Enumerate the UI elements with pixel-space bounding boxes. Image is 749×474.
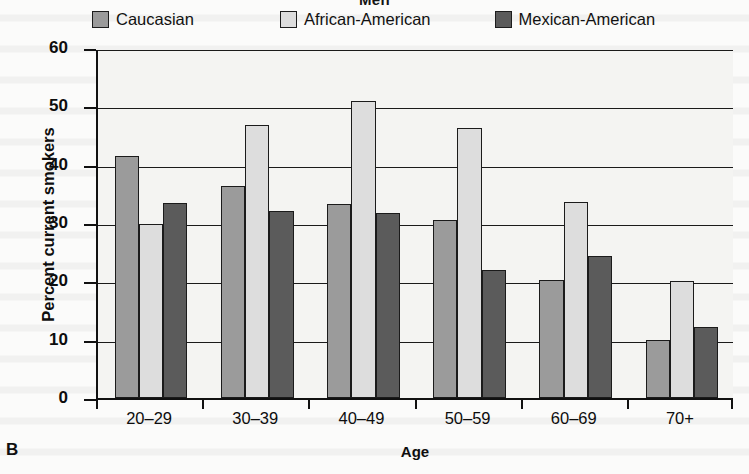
y-axis-tick-mark	[84, 166, 96, 168]
x-axis-tick-labels: 20–2930–3940–4950–5960–6970+	[96, 409, 733, 435]
y-axis-tick-label: 10	[49, 330, 68, 350]
x-axis-tick-label: 60–69	[551, 409, 597, 428]
bar-series-container	[98, 50, 733, 398]
x-axis-title: Age	[95, 443, 735, 460]
y-axis-tick-mark	[84, 341, 96, 343]
bar	[351, 101, 375, 399]
legend-label: African-American	[304, 11, 431, 28]
legend-swatch-icon	[495, 11, 512, 28]
x-axis-tick-label: 70+	[666, 409, 694, 428]
x-axis-tick-mark	[521, 400, 523, 409]
bar	[646, 340, 670, 398]
x-axis-tick-mark	[96, 400, 98, 409]
y-axis-tick-mark	[84, 107, 96, 109]
x-axis-tick-mark	[308, 400, 310, 409]
y-axis-tick-mark	[84, 399, 96, 401]
x-axis-tick-mark	[627, 400, 629, 409]
x-axis-tick-label: 20–29	[126, 409, 172, 428]
legend-item: Caucasian	[92, 11, 194, 28]
y-axis-tick-label: 20	[49, 271, 68, 291]
bar	[376, 213, 400, 398]
legend-item: African-American	[280, 11, 431, 28]
y-axis-tick-mark	[84, 224, 96, 226]
chart-title: Men	[0, 0, 749, 8]
x-axis-tick-label: 30–39	[232, 409, 278, 428]
legend-label: Mexican-American	[519, 11, 656, 28]
legend-item: Mexican-American	[495, 11, 656, 28]
y-axis-tick-mark	[84, 49, 96, 51]
x-axis-tick-label: 50–59	[445, 409, 491, 428]
panel-letter: B	[6, 440, 18, 460]
bar	[433, 220, 457, 399]
x-axis-tick-mark	[202, 400, 204, 409]
bar	[221, 186, 245, 398]
y-axis-tick-label: 30	[49, 213, 68, 233]
y-axis-tick-label: 0	[59, 388, 68, 408]
bar	[539, 280, 563, 398]
y-axis-tick-label: 50	[49, 96, 68, 116]
bar	[670, 281, 694, 398]
legend-swatch-icon	[280, 11, 297, 28]
bar	[115, 156, 139, 398]
bar	[482, 270, 506, 398]
bar	[588, 256, 612, 398]
bar	[163, 203, 187, 398]
x-axis-tick-label: 40–49	[338, 409, 384, 428]
bar	[269, 211, 293, 398]
y-axis-tick-label: 60	[49, 38, 68, 58]
x-axis-tick-mark	[415, 400, 417, 409]
x-axis-tick-mark	[731, 400, 733, 409]
bar	[564, 202, 588, 398]
plot-area: 0102030405060	[96, 50, 733, 400]
bar	[457, 128, 481, 398]
legend-label: Caucasian	[116, 11, 194, 28]
bar	[327, 204, 351, 398]
bar	[694, 327, 718, 398]
bar	[139, 224, 163, 398]
chart-legend: CaucasianAfrican-AmericanMexican-America…	[86, 8, 706, 30]
bar	[245, 125, 269, 398]
legend-swatch-icon	[92, 11, 109, 28]
chart-figure: Men CaucasianAfrican-AmericanMexican-Ame…	[0, 0, 749, 474]
y-axis-tick-mark	[84, 282, 96, 284]
y-axis-tick-label: 40	[49, 155, 68, 175]
